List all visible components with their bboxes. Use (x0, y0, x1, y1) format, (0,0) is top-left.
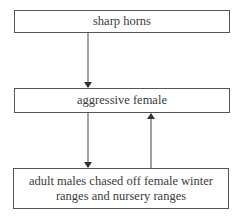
node-sharp-horns: sharp horns (14, 10, 230, 33)
node-adult-males-chased: adult males chased off female winter ran… (13, 168, 229, 209)
node-aggressive-female: aggressive female (14, 88, 230, 113)
node-label: adult males chased off female winter ran… (18, 174, 224, 204)
node-label: sharp horns (93, 14, 151, 29)
node-label: aggressive female (77, 93, 167, 108)
